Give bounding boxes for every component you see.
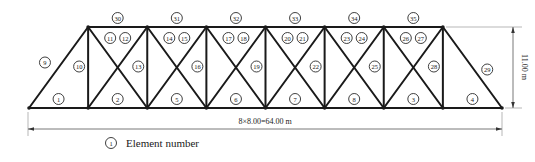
bottom-chord-label: 2 [112,94,123,105]
end-diagonal-label-right: 29 [482,64,493,75]
element-label-number: 24 [358,35,365,42]
top-chord-label: 30 [112,13,123,24]
cross-diagonal-label: 24 [356,33,367,44]
bottom-node [382,106,386,110]
top-node [323,25,327,29]
element-label-number: 28 [431,63,438,70]
cross-diagonal-label: 21 [297,33,308,44]
element-label-number: 19 [253,63,260,70]
vertical-label: 10 [74,61,85,72]
top-node [145,25,149,29]
element-label-number: 8 [353,96,356,103]
bottom-chord-label: 1 [53,94,64,105]
element-label-number: 16 [194,63,201,70]
cross-diagonal-label: 26 [400,33,411,44]
legend-symbol-number: 1 [109,140,112,147]
end-diagonal-label-left: 9 [39,57,50,68]
element-label-number: 18 [240,35,247,42]
element-label-number: 13 [135,63,142,70]
cross-diagonal-label: 23 [341,33,352,44]
element-label-number: 25 [372,63,379,70]
element-label-number: 29 [484,66,491,73]
top-node [264,25,268,29]
element-label-number: 21 [299,35,306,42]
element-label-number: 27 [418,35,425,42]
span-arrow-left [28,127,34,131]
top-node [86,25,90,29]
cross-diagonal-label: 12 [120,33,131,44]
element-label-number: 30 [114,15,121,22]
bottom-node [264,106,268,110]
cross-diagonal-label: 17 [223,33,234,44]
element-label-number: 22 [312,63,319,70]
span-dimension-label: 8×8.00=64.00 m [238,117,292,126]
top-chord-label: 32 [230,13,241,24]
span-dimension: 8×8.00=64.00 m [28,112,502,136]
vertical-label: 25 [369,61,380,72]
element-label-number: 32 [233,15,240,22]
span-arrow-right [496,127,502,131]
legend: 1 Element number [106,137,200,149]
element-label-number: 14 [166,35,173,42]
cross-diagonal-label: 27 [415,33,426,44]
bottom-node [441,106,445,110]
element-label-number: 26 [403,35,410,42]
bottom-node [500,106,504,110]
top-chord-label: 35 [408,13,419,24]
element-label-number: 33 [292,15,299,22]
bottom-node [27,106,31,110]
vertical-label: 22 [310,61,321,72]
top-chord-label: 33 [290,13,301,24]
vertical-label: 28 [428,61,439,72]
element-label-number: 5 [175,96,178,103]
element-label-number: 17 [225,35,232,42]
bottom-node [86,106,90,110]
height-arrow-bottom [511,102,515,108]
bottom-chord-label: 5 [171,94,182,105]
element-label-number: 9 [43,59,46,66]
cross-diagonal-label: 20 [282,33,293,44]
top-chord-label: 34 [349,13,360,24]
legend-text: Element number [126,137,199,149]
truss-diagram: 1256783430313233343592910131619222528111… [0,0,535,162]
element-label-number: 20 [284,35,291,42]
bottom-node [205,106,209,110]
top-node [382,25,386,29]
bottom-chord-label: 6 [230,94,241,105]
height-arrow-top [511,27,515,33]
bottom-chord-label: 3 [408,94,419,105]
element-label-number: 15 [181,35,188,42]
bottom-chord-label: 8 [349,94,360,105]
cross-diagonal-label: 18 [238,33,249,44]
element-label-number: 34 [351,15,358,22]
bottom-node [323,106,327,110]
vertical-label: 13 [133,61,144,72]
cross-diagonal-label: 14 [164,33,175,44]
height-dimension-label: 11.00 m [520,54,529,81]
bottom-chord-label: 7 [290,94,301,105]
bottom-chord-label: 4 [467,94,478,105]
element-label-number: 1 [57,96,60,103]
vertical-label: 19 [251,61,262,72]
element-label-number: 10 [76,63,83,70]
element-label-number: 35 [410,15,417,22]
element-label-number: 11 [107,35,113,42]
element-label-number: 12 [122,35,129,42]
top-node [441,25,445,29]
top-node [205,25,209,29]
cross-diagonal-label: 11 [105,33,116,44]
cross-diagonal-label: 15 [179,33,190,44]
top-chord-label: 31 [171,13,182,24]
element-label-number: 23 [343,35,350,42]
element-label-number: 2 [116,96,119,103]
element-label-number: 3 [412,96,415,103]
bottom-node [145,106,149,110]
element-label-number: 31 [174,15,181,22]
vertical-label: 16 [192,61,203,72]
